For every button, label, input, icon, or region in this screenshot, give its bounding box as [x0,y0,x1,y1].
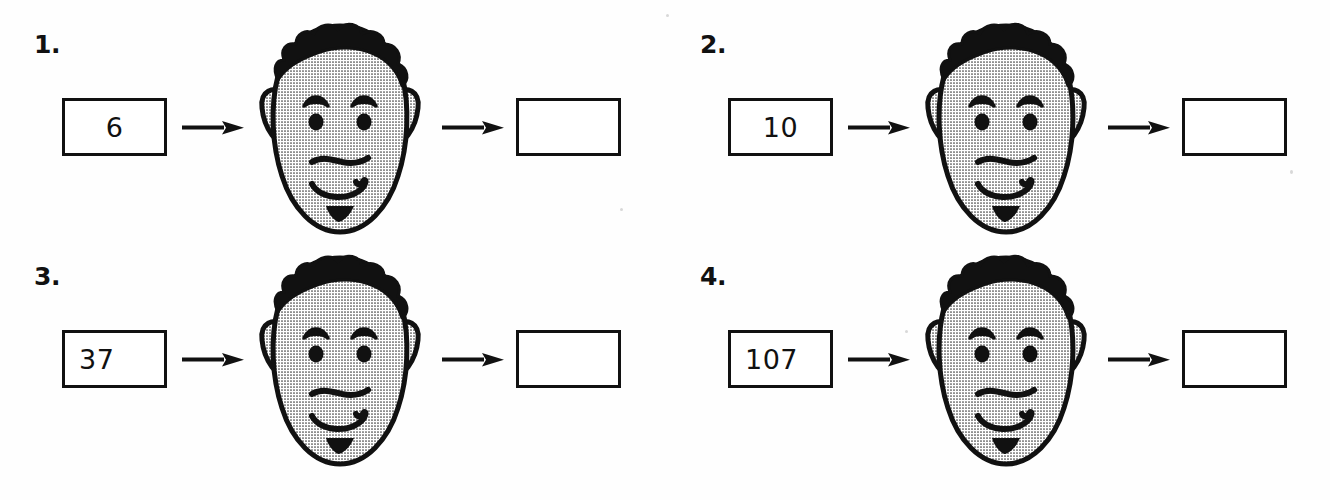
problem-4: 4. 107 [680,248,1320,478]
face-machine-3 [242,242,438,478]
face-machine-2 [908,10,1104,246]
arrow-in-3 [182,352,244,368]
problem-number-1: 1. [34,30,60,59]
arrow-out-2 [1108,120,1170,136]
arrow-in-2 [848,120,910,136]
output-box-1[interactable] [516,98,621,156]
problem-2: 2. 10 [680,16,1320,246]
scan-speck [666,14,669,17]
arrow-out-3 [442,352,504,368]
output-box-2[interactable] [1182,98,1287,156]
input-box-4[interactable]: 107 [728,330,833,388]
input-box-2[interactable]: 10 [728,98,833,156]
arrow-out-4 [1108,352,1170,368]
problem-number-3: 3. [34,262,60,291]
input-value-1: 6 [65,112,164,143]
input-box-1[interactable]: 6 [62,98,167,156]
arrow-in-1 [182,120,244,136]
input-box-3[interactable]: 37 [62,330,167,388]
problem-3: 3. 37 [14,248,654,478]
problem-1: 1. 6 [14,16,654,246]
worksheet-page: 1. 6 [0,0,1330,500]
arrow-in-4 [848,352,910,368]
problem-number-2: 2. [700,30,726,59]
face-machine-1 [242,10,438,246]
output-box-3[interactable] [516,330,621,388]
problem-number-4: 4. [700,262,726,291]
arrow-out-1 [442,120,504,136]
input-value-3: 37 [79,344,114,375]
input-value-4: 107 [745,344,798,375]
output-box-4[interactable] [1182,330,1287,388]
face-machine-4 [908,242,1104,478]
input-value-2: 10 [731,112,830,143]
